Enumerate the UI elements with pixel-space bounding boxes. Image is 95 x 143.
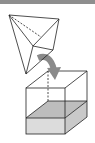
tetra-top-edge [9, 15, 59, 19]
cube-fill-layer [26, 101, 87, 134]
tetra-hidden-edge [9, 15, 41, 37]
tetra-front-edge-a [9, 15, 33, 46]
tetra-mid-edge [33, 19, 59, 46]
diagram-canvas [0, 0, 95, 143]
tetra-front-bottom [26, 46, 33, 74]
arrow-head [47, 67, 61, 80]
fill-front-face [26, 118, 65, 134]
tetra-right-edge [53, 19, 59, 50]
tetra-left-edge [9, 15, 26, 74]
tetra-inner-edge [33, 46, 53, 50]
